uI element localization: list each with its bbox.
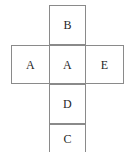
net-cell-center: A [49,45,86,84]
net-cell-label-lower: D [63,98,72,110]
net-cell-label-bottom: C [63,133,71,145]
net-cell-label-right: E [101,59,109,71]
net-cell-lower: D [49,84,86,124]
net-cell-bottom: C [49,124,86,152]
net-cell-top: B [49,5,86,45]
net-cell-right: E [85,45,124,84]
net-cell-left: A [11,45,50,84]
net-cell-label-center: A [63,59,72,71]
net-cell-label-left: A [26,59,35,71]
net-cell-label-top: B [63,19,71,31]
cube-net-diagram: B A A E D C [0,0,133,152]
